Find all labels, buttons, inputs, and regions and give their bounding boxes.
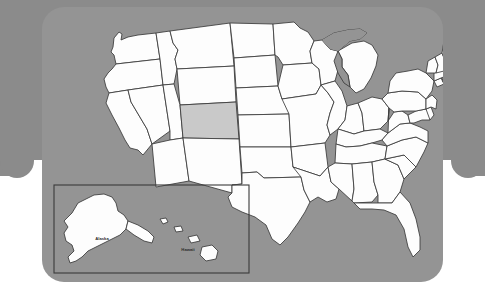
state-michigan[interactable] <box>338 41 378 93</box>
state-wyoming[interactable] <box>177 66 236 105</box>
island-kauai[interactable] <box>160 218 168 224</box>
state-alaska-aleutians[interactable] <box>126 221 154 243</box>
hawaii-islands-group[interactable] <box>160 218 218 261</box>
island-maui[interactable] <box>188 235 200 243</box>
state-montana[interactable] <box>170 23 234 69</box>
state-north-dakota[interactable] <box>230 23 275 58</box>
state-iowa[interactable] <box>278 63 321 99</box>
map-graphic-root: Alaska Hawaii <box>0 0 485 295</box>
state-kansas[interactable] <box>238 114 291 147</box>
hawaii-label: Hawaii <box>181 247 194 252</box>
us-map-svg: Alaska Hawaii <box>42 7 443 282</box>
state-colorado[interactable] <box>180 102 239 139</box>
island-hawaii-big[interactable] <box>200 245 218 261</box>
contiguous-states-group <box>104 22 443 257</box>
alaska-label: Alaska <box>95 236 109 241</box>
state-washington[interactable] <box>111 32 160 64</box>
state-minnesota[interactable] <box>273 22 314 65</box>
backdrop-left-rounded-lobe <box>0 150 34 178</box>
island-oahu[interactable] <box>174 226 183 232</box>
map-panel: Alaska Hawaii <box>42 7 443 282</box>
state-south-dakota[interactable] <box>234 55 278 88</box>
state-arizona[interactable] <box>152 138 189 187</box>
state-alaska[interactable] <box>64 194 128 263</box>
alaska-hawaii-inset: Alaska Hawaii <box>54 185 249 273</box>
